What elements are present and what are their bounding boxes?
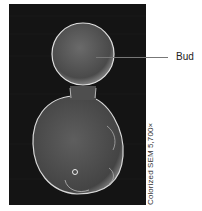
bud-leader-line [96, 57, 168, 58]
sem-micrograph [9, 4, 146, 205]
yeast-cell-image [9, 4, 146, 205]
micrograph-caption: Colorized SEM 5,700× [146, 123, 155, 205]
bud-label: Bud [176, 51, 194, 62]
